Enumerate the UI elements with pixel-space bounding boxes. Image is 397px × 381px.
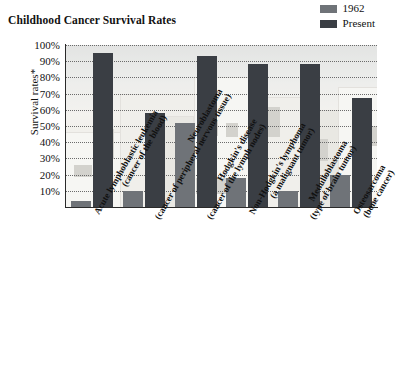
y-axis-tick-label: 20% [14,170,60,181]
y-axis-line [65,44,66,208]
y-axis-tick-label: 10% [14,186,60,197]
legend-swatch-icon [320,20,337,28]
legend: 1962 Present [320,2,375,32]
y-axis-title: Survival rates* [28,42,40,162]
legend-label: 1962 [343,3,365,14]
x-axis-tick-labels: Acute lymphoblastic leukemia(cancer of t… [0,207,383,381]
legend-item-1962: 1962 [320,2,375,15]
gridline [66,45,377,46]
legend-item-present: Present [320,17,375,30]
legend-swatch-icon [320,5,337,13]
photo-window [226,123,238,137]
legend-label: Present [343,18,375,29]
